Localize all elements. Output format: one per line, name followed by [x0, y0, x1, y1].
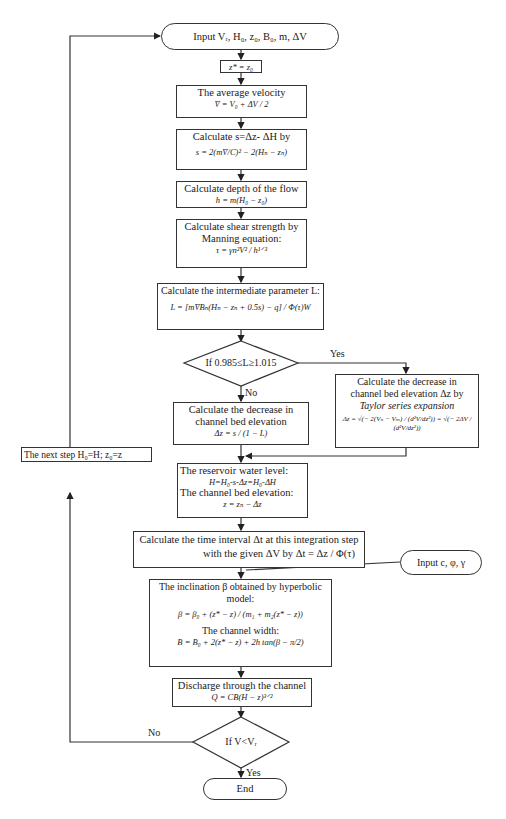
reservoir-box: The reservoir water level: H=H₀-s-Δz=H₀-…	[177, 463, 308, 518]
discharge-box: Discharge through the channel Q = CB(H −…	[172, 678, 312, 707]
decision2-text: If V<Vᵣ	[205, 736, 277, 747]
decision1-yes-label: Yes	[330, 348, 345, 359]
decision2-no-label: No	[148, 727, 160, 738]
param-l-box: Calculate the intermediate parameter L: …	[157, 283, 324, 330]
end-terminal: End	[203, 778, 287, 800]
time-interval-box: Calculate the time interval Δt at this i…	[133, 531, 365, 568]
input2-terminal: Input c, φ, γ	[400, 550, 482, 575]
calc-s-box: Calculate s=Δz- ΔH by s = 2(mV̄/C)² − 2(…	[176, 129, 307, 170]
inclination-box: The inclination β obtained by hyperbolic…	[149, 579, 332, 667]
decrease-taylor-box: Calculate the decrease in channel bed el…	[335, 374, 479, 448]
init-box: z* = z₀	[220, 60, 262, 73]
shear-box: Calculate shear strength by Manning equa…	[176, 219, 307, 268]
depth-box: Calculate depth of the flow h = m(H₀ − z…	[176, 181, 307, 208]
decision2-yes-label: Yes	[246, 767, 261, 778]
decrease-simple-box: Calculate the decrease in channel bed el…	[173, 402, 309, 445]
decision1-no-label: No	[245, 387, 257, 398]
next-step-box: The next step H₀=H; z₀=z	[21, 447, 152, 462]
start-terminal: Input Vᵣ, H₀, z₀, B₀, m, ΔV	[161, 23, 339, 50]
decision1-text: If 0.985≤L≥1.015	[190, 357, 292, 368]
avg-velocity-box: The average velocity V̄ = V₀ + ΔV / 2	[176, 85, 307, 118]
